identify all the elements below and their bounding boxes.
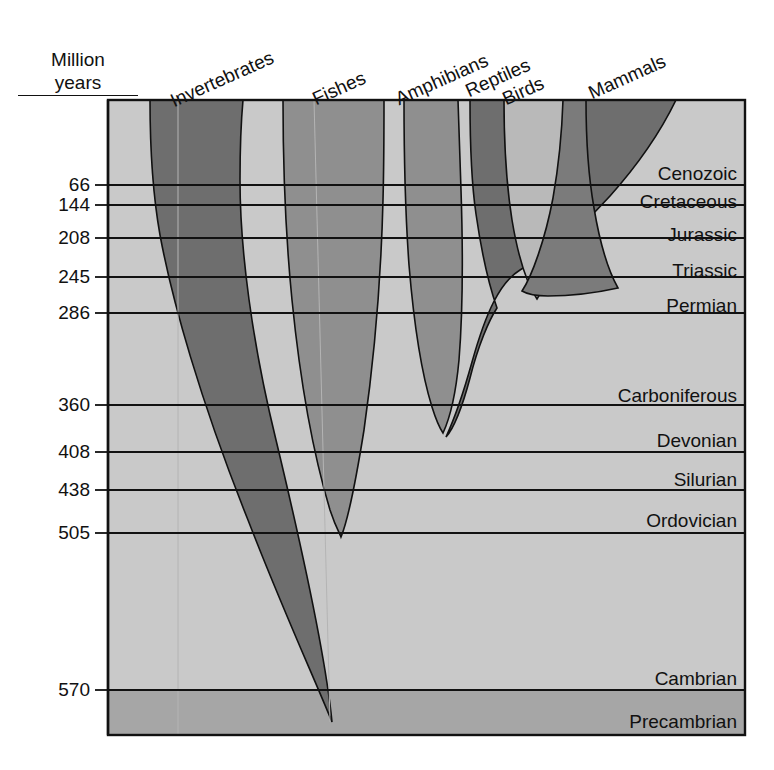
period-label-cambrian: Cambrian	[655, 668, 737, 690]
figure-stage: Million years 66144208245286360408438505…	[0, 0, 774, 770]
period-label-jurassic: Jurassic	[667, 224, 737, 246]
period-label-permian: Permian	[666, 295, 737, 317]
y-tick-label: 208	[18, 227, 90, 249]
period-label-silurian: Silurian	[674, 469, 737, 491]
y-tick-label: 438	[18, 479, 90, 501]
y-tick-label: 66	[18, 174, 90, 196]
period-label-cenozoic: Cenozoic	[658, 163, 737, 185]
y-axis-title-line2: years	[18, 71, 138, 96]
period-label-carboniferous: Carboniferous	[618, 385, 737, 407]
y-axis-title-line1: Million	[51, 49, 105, 70]
period-label-cretaceous: Cretaceous	[640, 191, 737, 213]
y-tick-label: 360	[18, 394, 90, 416]
y-tick-label: 144	[18, 194, 90, 216]
period-label-triassic: Triassic	[672, 260, 737, 282]
y-tick-label: 245	[18, 266, 90, 288]
y-tick-label: 570	[18, 679, 90, 701]
period-label-ordovician: Ordovician	[646, 510, 737, 532]
period-label-precambrian: Precambrian	[629, 711, 737, 733]
y-tick-label: 286	[18, 302, 90, 324]
y-tick-label: 505	[18, 522, 90, 544]
period-label-devonian: Devonian	[657, 430, 737, 452]
y-tick-marks	[95, 185, 108, 690]
y-axis-title: Million years	[18, 48, 138, 96]
y-tick-label: 408	[18, 441, 90, 463]
